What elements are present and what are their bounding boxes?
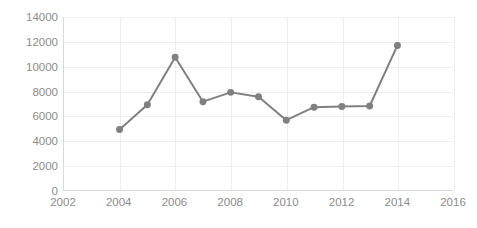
x-axis-tick-label: 2010 (256, 196, 316, 209)
data-point-marker (199, 98, 206, 105)
data-point-marker (394, 42, 401, 49)
gridline-vertical (454, 17, 455, 190)
x-axis-tick-label: 2002 (33, 196, 93, 209)
data-point-marker (366, 102, 373, 109)
data-point-marker (144, 101, 151, 108)
x-axis-tick-label: 2012 (312, 196, 372, 209)
y-axis-tick-label: 4000 (2, 135, 58, 147)
y-axis-tick-labels: 02000400060008000100001200014000 (0, 0, 58, 228)
line-chart: 02000400060008000100001200014000 2002200… (0, 0, 477, 228)
data-point-marker (311, 104, 318, 111)
x-axis-tick-label: 2006 (144, 196, 204, 209)
x-axis-tick-labels: 20022004200620082010201220142016 (0, 196, 477, 216)
y-axis-tick-label: 14000 (2, 11, 58, 23)
y-axis-tick-label: 8000 (2, 86, 58, 98)
data-point-marker (283, 117, 290, 124)
data-series-layer (64, 17, 453, 190)
data-point-marker (255, 93, 262, 100)
data-point-marker (227, 89, 234, 96)
series-markers (116, 42, 401, 133)
plot-area (63, 17, 453, 191)
series-line (120, 45, 398, 129)
x-axis-tick-label: 2016 (423, 196, 477, 209)
x-axis-tick-label: 2008 (200, 196, 260, 209)
y-axis-tick-label: 12000 (2, 36, 58, 48)
y-axis-tick-label: 6000 (2, 110, 58, 122)
data-point-marker (116, 126, 123, 133)
data-point-marker (338, 103, 345, 110)
data-point-marker (172, 54, 179, 61)
x-axis-tick-label: 2014 (367, 196, 427, 209)
x-axis-tick-label: 2004 (89, 196, 149, 209)
y-axis-tick-label: 10000 (2, 61, 58, 73)
y-axis-tick-label: 2000 (2, 160, 58, 172)
